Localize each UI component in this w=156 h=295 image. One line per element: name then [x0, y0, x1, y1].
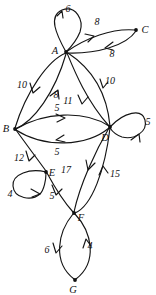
- edge-weight-A-C: 8: [95, 16, 100, 27]
- edge-F-G: [53, 214, 74, 279]
- edge-E-E: [13, 171, 46, 198]
- edge-D-B: [16, 128, 109, 143]
- node-dot-C[interactable]: [134, 28, 138, 32]
- edge-weight-E-E: 4: [8, 188, 13, 199]
- edge-path-D-D: [110, 113, 145, 138]
- edge-D-D: [110, 113, 145, 142]
- node-label-G: G: [69, 284, 77, 295]
- node-label-C: C: [141, 24, 149, 35]
- node-dot-E[interactable]: [44, 170, 48, 174]
- node-label-E: E: [48, 167, 56, 178]
- edge-weight-A-B: 10: [17, 79, 27, 90]
- edge-path-B-E: [16, 130, 46, 171]
- node-dot-G[interactable]: [73, 278, 77, 282]
- edge-weight-G-F: 4: [88, 240, 93, 251]
- edge-weight-D-B: 5: [55, 146, 60, 157]
- edge-weight-D-D: 5: [146, 116, 151, 127]
- arrowhead-D-B: [56, 135, 65, 142]
- edge-path-E-E: [13, 171, 46, 198]
- node-label-A: A: [51, 45, 59, 56]
- node-dot-D[interactable]: [108, 125, 112, 129]
- edge-weight-F-D: 15: [110, 168, 120, 179]
- node-dot-A[interactable]: [64, 50, 68, 54]
- node-label-B: B: [3, 123, 10, 134]
- node-label-F: F: [77, 212, 85, 223]
- edge-weight-B-D: 5: [55, 102, 60, 113]
- node-dot-F[interactable]: [72, 211, 76, 215]
- graph-diagram-page: A B C D E F G 6 8 8 10 8 11 10 5 5 5 12 …: [0, 0, 156, 295]
- directed-graph-canvas: A B C D E F G 6 8 8 10 8 11 10 5 5 5 12 …: [0, 0, 156, 295]
- edge-B-E: [16, 130, 46, 171]
- edge-weight-B-A: 8: [54, 89, 59, 100]
- edge-weight-D-A: 10: [105, 75, 115, 86]
- arrowhead-B-E: [26, 151, 35, 161]
- node-label-D: D: [100, 132, 109, 143]
- edge-weight-D-F: 17: [61, 164, 72, 175]
- edge-weight-E-F: 5: [50, 190, 55, 201]
- edge-weight-A-D: 11: [63, 95, 72, 106]
- node-dot-B[interactable]: [13, 127, 17, 131]
- arrowhead-F-G: [53, 243, 62, 253]
- edge-weight-F-G: 6: [45, 244, 50, 255]
- edge-weight-C-A: 8: [110, 48, 115, 59]
- edge-weight-A-A: 6: [66, 3, 71, 14]
- arrowhead-A-D: [78, 95, 88, 104]
- arrowhead-E-E: [31, 189, 40, 197]
- arrowhead-D-D: [131, 134, 140, 142]
- edge-weight-B-E: 12: [14, 152, 24, 163]
- edge-B-D: [16, 114, 109, 129]
